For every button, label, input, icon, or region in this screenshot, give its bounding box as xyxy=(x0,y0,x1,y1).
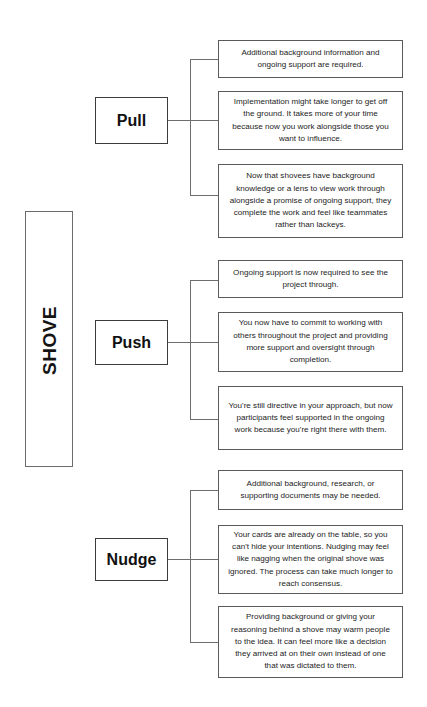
connector-nudge-stem xyxy=(168,559,190,560)
connector-push-trunk xyxy=(190,280,191,419)
detail-box-pull-2: Implementation might take longer to get … xyxy=(218,91,403,150)
root-node-label: SHOVE xyxy=(26,212,74,468)
connector-nudge-branch-1 xyxy=(190,490,218,491)
category-node-push: Push xyxy=(95,320,168,365)
detail-box-nudge-1: Additional background, research, or supp… xyxy=(218,470,403,510)
detail-text: Now that shovees have background knowled… xyxy=(228,170,393,231)
connector-pull-stem xyxy=(168,120,190,121)
category-node-pull: Pull xyxy=(95,97,168,144)
shove-diagram: SHOVE Pull Additional background informa… xyxy=(0,0,427,707)
detail-box-push-3: You're still directive in your approach,… xyxy=(218,386,403,450)
category-node-push-label: Push xyxy=(112,334,151,352)
detail-box-push-1: Ongoing support is now required to see t… xyxy=(218,260,403,298)
connector-push-branch-2 xyxy=(190,342,218,343)
category-node-nudge: Nudge xyxy=(95,538,168,581)
detail-box-pull-1: Additional background information and on… xyxy=(218,40,403,78)
detail-text: Providing background or giving your reas… xyxy=(228,611,393,672)
detail-text: Implementation might take longer to get … xyxy=(228,96,393,145)
connector-push-stem xyxy=(168,342,190,343)
detail-text: Additional background, research, or supp… xyxy=(228,478,393,503)
connector-pull-branch-3 xyxy=(190,195,218,196)
connector-push-branch-3 xyxy=(190,419,218,420)
category-node-nudge-label: Nudge xyxy=(107,551,157,569)
category-node-pull-label: Pull xyxy=(117,112,146,130)
detail-box-nudge-2: Your cards are already on the table, so … xyxy=(218,525,403,594)
detail-text: Additional background information and on… xyxy=(228,47,393,72)
detail-text: You're still directive in your approach,… xyxy=(228,400,393,437)
connector-pull-trunk xyxy=(190,59,191,195)
connector-nudge-trunk xyxy=(190,490,191,642)
detail-box-pull-3: Now that shovees have background knowled… xyxy=(218,164,403,238)
detail-text: Your cards are already on the table, so … xyxy=(228,529,393,590)
detail-text: Ongoing support is now required to see t… xyxy=(228,267,393,292)
connector-nudge-branch-2 xyxy=(190,559,218,560)
detail-text: You now have to commit to working with o… xyxy=(228,317,393,366)
connector-push-branch-1 xyxy=(190,280,218,281)
root-node-shove: SHOVE xyxy=(25,211,73,467)
detail-box-nudge-3: Providing background or giving your reas… xyxy=(218,606,403,678)
connector-pull-branch-1 xyxy=(190,59,218,60)
detail-box-push-2: You now have to commit to working with o… xyxy=(218,312,403,372)
connector-nudge-branch-3 xyxy=(190,642,218,643)
connector-pull-branch-2 xyxy=(190,120,218,121)
